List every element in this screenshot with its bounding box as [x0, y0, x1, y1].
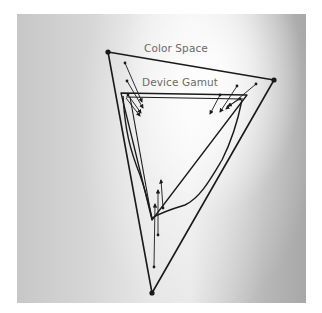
vertex-dot-icon — [271, 77, 276, 82]
color-space-label: Color Space — [144, 42, 208, 54]
arrows-upper-left — [124, 62, 143, 116]
device-gamut-label: Device Gamut — [142, 76, 218, 88]
vertex-dot-icon — [105, 49, 110, 54]
arrows-bottom — [153, 180, 165, 268]
vertex-dot-icon — [149, 290, 154, 295]
diagram-canvas: Color Space Device Gamut — [0, 0, 322, 313]
